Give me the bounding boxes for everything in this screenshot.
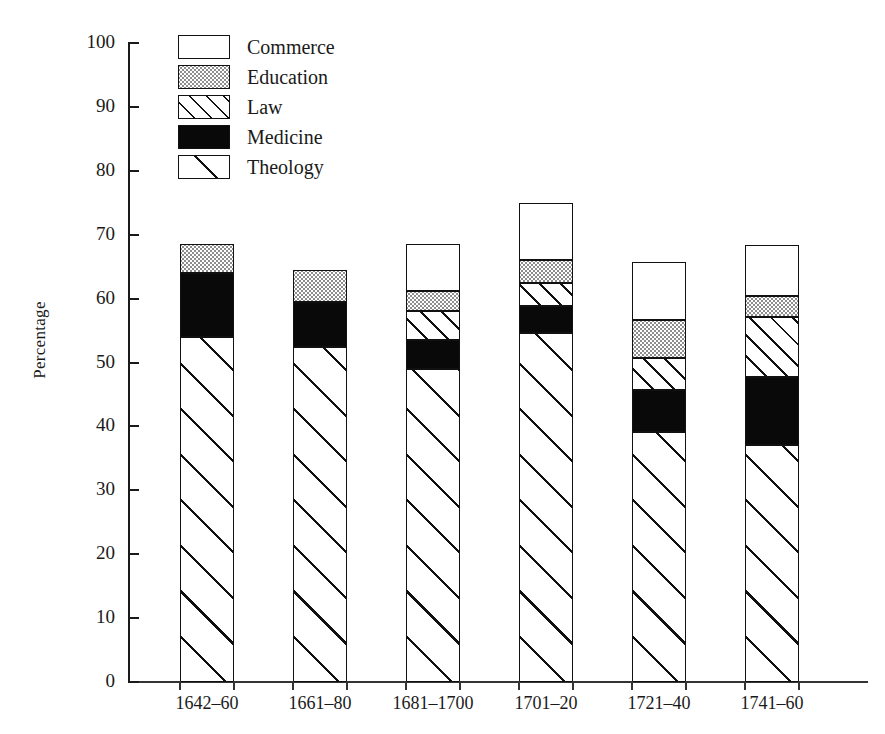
legend-item-medicine[interactable]: Medicine (178, 122, 408, 151)
bar-1721–40 (632, 262, 686, 682)
legend-item-commerce[interactable]: Commerce (178, 32, 408, 61)
y-tick-label-wrap: 80 (55, 171, 115, 172)
y-tick-label: 50 (57, 352, 115, 371)
bar-segment-theology (180, 337, 234, 682)
y-tick-label: 70 (57, 224, 115, 243)
y-tick-label-wrap: 100 (55, 43, 115, 44)
legend-label: Medicine (247, 127, 323, 147)
x-tick-mark (405, 681, 407, 690)
y-tick-label: 10 (57, 607, 115, 626)
bar-segment-law (406, 311, 460, 340)
x-tick-mark (744, 681, 746, 690)
y-tick-label-wrap: 30 (55, 490, 115, 491)
bar-segment-law (632, 358, 686, 390)
y-tick-label: 40 (57, 415, 115, 434)
bar-1661–80 (293, 270, 347, 682)
bar-segment-commerce (745, 245, 799, 296)
x-axis-label-5: 1741–60 (702, 693, 842, 714)
legend-item-theology[interactable]: Theology (178, 152, 408, 181)
x-tick-mark (685, 681, 687, 690)
legend-swatch-commerce (178, 35, 230, 59)
bar-segment-medicine (180, 273, 234, 337)
x-tick-mark (572, 681, 574, 690)
bar-segment-theology (745, 445, 799, 682)
bar-segment-commerce (519, 203, 573, 261)
x-tick-mark (798, 681, 800, 690)
bar-segment-medicine (745, 377, 799, 445)
bar-segment-commerce (406, 244, 460, 291)
bar-segment-theology (293, 347, 347, 682)
bar-segment-education (519, 260, 573, 282)
bar-segment-education (180, 244, 234, 273)
legend-label: Theology (247, 157, 324, 177)
bar-segment-education (293, 270, 347, 302)
bar-1642–60 (180, 244, 234, 682)
y-tick-label: 20 (57, 543, 115, 562)
y-tick-label-wrap: 10 (55, 618, 115, 619)
y-tick-label-wrap: 70 (55, 235, 115, 236)
y-tick-label-wrap: 0 (55, 682, 115, 683)
y-tick-label: 80 (57, 160, 115, 179)
bar-segment-medicine (406, 340, 460, 369)
bar-1741–60 (745, 245, 799, 682)
bar-segment-medicine (293, 302, 347, 347)
bar-segment-law (519, 283, 573, 307)
legend-label: Law (247, 97, 283, 117)
y-tick-label-wrap: 40 (55, 426, 115, 427)
bar-segment-theology (406, 369, 460, 682)
chart-legend: CommerceEducationLawMedicineTheology (178, 32, 408, 182)
y-tick-label: 100 (57, 32, 115, 51)
bar-1701–20 (519, 203, 573, 682)
x-tick-mark (631, 681, 633, 690)
legend-label: Commerce (247, 37, 335, 57)
legend-item-law[interactable]: Law (178, 92, 408, 121)
x-tick-mark (179, 681, 181, 690)
x-tick-mark (459, 681, 461, 690)
legend-label: Education (247, 67, 328, 87)
bar-1681–1700 (406, 244, 460, 682)
y-tick-label: 0 (57, 671, 115, 690)
y-axis-title: Percentage (30, 270, 50, 410)
bar-segment-commerce (632, 262, 686, 320)
bar-segment-education (632, 320, 686, 358)
bar-segment-medicine (519, 306, 573, 333)
bar-segment-theology (519, 333, 573, 682)
y-tick-label-wrap: 20 (55, 554, 115, 555)
y-tick-label: 60 (57, 288, 115, 307)
bar-segment-education (745, 296, 799, 317)
x-tick-mark (346, 681, 348, 690)
legend-swatch-medicine (178, 125, 230, 149)
y-tick-label: 90 (57, 96, 115, 115)
legend-item-education[interactable]: Education (178, 62, 408, 91)
bar-segment-medicine (632, 390, 686, 432)
bar-segment-education (406, 291, 460, 311)
legend-swatch-law (178, 95, 230, 119)
y-tick-label: 30 (57, 479, 115, 498)
x-tick-mark (233, 681, 235, 690)
x-tick-mark (292, 681, 294, 690)
stacked-bar-chart: Percentage 0102030405060708090100 1642–6… (0, 0, 885, 734)
y-tick-label-wrap: 50 (55, 363, 115, 364)
legend-swatch-education (178, 65, 230, 89)
x-tick-mark (518, 681, 520, 690)
bar-segment-law (745, 317, 799, 377)
y-tick-label-wrap: 90 (55, 107, 115, 108)
bar-segment-theology (632, 432, 686, 682)
y-tick-label-wrap: 60 (55, 299, 115, 300)
legend-swatch-theology (178, 155, 230, 179)
